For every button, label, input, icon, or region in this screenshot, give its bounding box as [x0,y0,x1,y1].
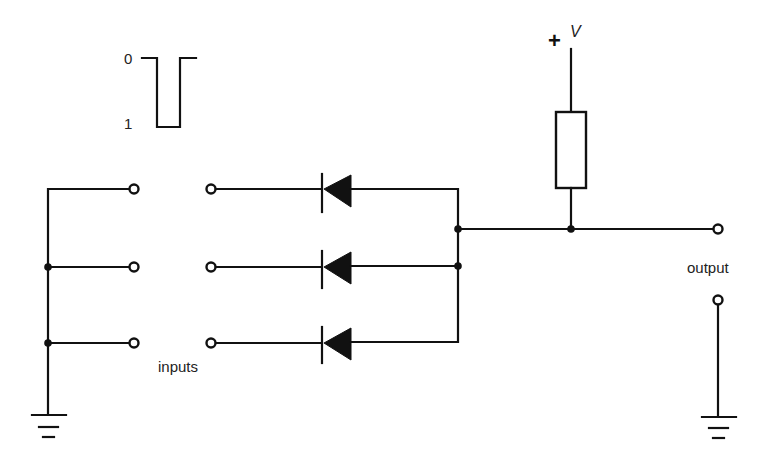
diode-icon [324,175,351,207]
pulse-label-0: 0 [124,50,132,67]
diode-row-3 [216,229,458,363]
diode-icon [324,328,351,360]
circuit-diagram: 0 1 inputs [0,0,764,466]
diode-row-2 [216,251,458,288]
ground-icon [32,415,66,437]
pull-up-resistor [556,49,586,229]
inputs-label: inputs [158,358,198,375]
output-label: output [687,259,730,276]
diode-icon [324,252,351,284]
ground-icon [702,417,736,438]
supply-voltage-label: V [570,23,582,40]
input-switches-left [130,185,139,348]
switch-terminal-3b[interactable] [207,339,216,348]
bus-wire [48,189,134,414]
diode-row-1 [216,174,458,229]
resistor-icon [556,112,586,188]
input-switches-right [207,185,216,348]
pulse-shape [142,58,196,127]
output-terminal-top[interactable] [714,225,723,234]
junction-dot [44,339,52,347]
switch-terminal-3a[interactable] [130,339,139,348]
input-pulse-waveform: 0 1 [124,50,196,132]
switch-terminal-2a[interactable] [130,263,139,272]
junction-dot [454,262,462,270]
output-terminal-bottom[interactable] [714,296,723,305]
pulse-label-1: 1 [124,115,132,132]
left-ground-bus [32,189,134,437]
switch-terminal-2b[interactable] [207,263,216,272]
switch-terminal-1b[interactable] [207,185,216,194]
junction-dot [44,263,52,271]
supply-plus-sign: + [548,28,561,53]
switch-terminal-1a[interactable] [130,185,139,194]
